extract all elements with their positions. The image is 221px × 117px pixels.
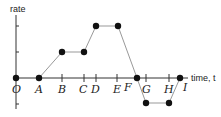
tick-label-o: O <box>12 83 21 96</box>
rate-time-chart: rate time, t O A B C D E F G H I <box>0 0 221 117</box>
tick-label-d: D <box>90 83 100 96</box>
tick-label-i: I <box>182 81 188 94</box>
tick-label-b: B <box>57 83 66 96</box>
y-axis-label: rate <box>10 4 26 14</box>
x-axis-label: time, t <box>191 73 216 83</box>
tick-label-a: A <box>34 83 43 96</box>
tick-label-f: F <box>123 81 132 94</box>
tick-label-h: H <box>163 83 174 96</box>
tick-label-c: C <box>79 83 88 96</box>
tick-label-e: E <box>112 83 121 96</box>
tick-label-g: G <box>142 83 151 96</box>
